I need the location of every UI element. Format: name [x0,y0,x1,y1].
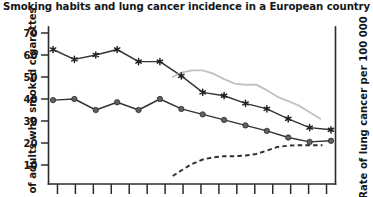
series-marker-circle [200,112,205,117]
y-tick-label: 20 [24,138,38,149]
axis-lines [49,27,336,184]
series-marker-star [50,46,55,52]
series-line-2 [173,70,321,118]
series-marker-circle [50,97,55,102]
x-axis-ticks [57,184,326,194]
y-tick-label: 40 [24,94,38,105]
series-marker-circle [221,117,226,122]
series-marker-circle [179,106,184,111]
series-marker-circle [243,123,248,128]
series-marker-circle [114,100,119,105]
y-tick-label: 70 [24,28,38,39]
series-marker-circle [72,96,77,101]
y-tick-label: 60 [24,50,38,61]
chart-figure: Smoking habits and lung cancer incidence… [0,0,373,197]
y-tick-label: 30 [24,116,38,127]
series-marker-circle [264,128,269,133]
y-tick-label: 10 [24,160,38,171]
y-tick-label: 50 [24,72,38,83]
series-marker-circle [93,107,98,112]
series-marker-circle [157,96,162,101]
series-marker-circle [328,138,333,143]
data-marker-layer [50,46,333,144]
series-marker-circle [286,135,291,140]
y-axis-ticks: 10203040506070 [24,28,49,171]
series-line-3 [173,145,323,176]
series-marker-circle [307,139,312,144]
chart-plot-area: 10203040506070 [0,0,373,197]
series-marker-circle [136,107,141,112]
